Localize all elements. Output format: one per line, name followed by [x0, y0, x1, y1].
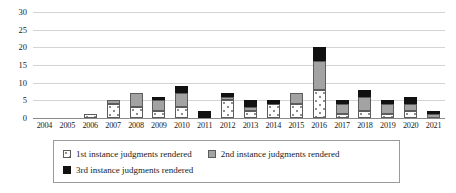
bar-segment-series2	[336, 104, 349, 115]
x-tick-label-2021: 2021	[422, 119, 445, 132]
y-tick-label: 0	[23, 114, 27, 123]
legend-swatch-2nd-instance-icon	[208, 150, 216, 158]
bar-segment-series2	[290, 93, 303, 104]
bar-stack	[381, 100, 394, 118]
y-tick-label: 25	[19, 25, 28, 34]
bar-stack	[221, 93, 234, 118]
y-tick-label: 10	[19, 78, 28, 87]
legend-swatch-3rd-instance-icon	[63, 166, 71, 174]
x-tick-label-2010: 2010	[170, 119, 193, 132]
x-tick-label-2005: 2005	[56, 119, 79, 132]
bar-column-2020[interactable]	[399, 12, 422, 118]
bar-stack	[313, 47, 326, 118]
bar-segment-series1	[221, 100, 234, 118]
x-tick-label-2016: 2016	[308, 119, 331, 132]
bar-stack	[152, 97, 165, 118]
legend-label-1st-instance: 1st instance judgments rendered	[76, 150, 192, 159]
bar-segment-series3	[358, 90, 371, 97]
x-tick-label-2011: 2011	[193, 119, 216, 132]
bar-segment-series3	[198, 111, 211, 118]
bar-segment-series2	[427, 114, 440, 118]
legend-item-3rd-instance[interactable]: 3rd instance judgments rendered	[63, 166, 193, 175]
bar-segment-series1	[267, 104, 280, 118]
bar-column-2007[interactable]	[102, 12, 125, 118]
x-axis: 2004200520062007200820092010201120122013…	[33, 119, 445, 132]
bar-column-2021[interactable]	[422, 12, 445, 118]
bar-segment-series2	[313, 61, 326, 89]
x-tick-label-2020: 2020	[399, 119, 422, 132]
bar-segment-series1	[244, 111, 257, 118]
bar-column-2017[interactable]	[331, 12, 354, 118]
plot-area	[33, 12, 445, 118]
x-tick-label-2014: 2014	[262, 119, 285, 132]
bar-segment-series3	[244, 100, 257, 107]
bar-column-2004[interactable]	[33, 12, 56, 118]
bar-column-2006[interactable]	[79, 12, 102, 118]
bar-segment-series1	[152, 111, 165, 118]
x-tick-label-2008: 2008	[125, 119, 148, 132]
stacked-bar-chart: 302520151050 200420052006200720082009201…	[0, 0, 456, 193]
bar-segment-series1	[358, 111, 371, 118]
bar-stack	[290, 93, 303, 118]
bar-segment-series3	[313, 47, 326, 61]
y-tick-label: 15	[19, 61, 28, 70]
x-tick-label-2019: 2019	[376, 119, 399, 132]
chart-legend: 1st instance judgments rendered 2nd inst…	[53, 140, 400, 183]
bar-segment-series2	[358, 97, 371, 111]
bar-stack	[244, 100, 257, 118]
legend-item-1st-instance[interactable]: 1st instance judgments rendered	[63, 150, 192, 159]
y-tick-label: 30	[19, 8, 28, 17]
bar-stack	[198, 111, 211, 118]
bar-column-2009[interactable]	[147, 12, 170, 118]
bar-segment-series1	[290, 104, 303, 118]
bar-column-2015[interactable]	[285, 12, 308, 118]
x-tick-label-2015: 2015	[285, 119, 308, 132]
bar-column-2018[interactable]	[353, 12, 376, 118]
x-tick-label-2013: 2013	[239, 119, 262, 132]
bar-segment-series1	[381, 114, 394, 118]
bar-segment-series1	[84, 114, 97, 118]
bar-column-2012[interactable]	[216, 12, 239, 118]
bar-column-2011[interactable]	[193, 12, 216, 118]
bar-column-2008[interactable]	[125, 12, 148, 118]
bar-stack	[404, 97, 417, 118]
bar-column-2005[interactable]	[56, 12, 79, 118]
bar-stack	[130, 93, 143, 118]
bar-column-2010[interactable]	[170, 12, 193, 118]
bar-segment-series1	[404, 111, 417, 118]
x-tick-label-2012: 2012	[216, 119, 239, 132]
y-axis: 302520151050	[0, 12, 30, 118]
y-tick-label: 5	[23, 96, 27, 105]
bar-column-2019[interactable]	[376, 12, 399, 118]
bar-segment-series1	[130, 107, 143, 118]
legend-row-1: 1st instance judgments rendered 2nd inst…	[63, 146, 399, 162]
bar-stack	[427, 111, 440, 118]
bar-stack	[84, 114, 97, 118]
bars-layer	[33, 12, 445, 118]
x-tick-label-2004: 2004	[33, 119, 56, 132]
legend-label-2nd-instance: 2nd instance judgments rendered	[221, 150, 340, 159]
bar-segment-series2	[381, 104, 394, 115]
x-tick-label-2007: 2007	[102, 119, 125, 132]
x-tick-label-2006: 2006	[79, 119, 102, 132]
bar-segment-series2	[130, 93, 143, 107]
bar-segment-series2	[175, 93, 188, 107]
bar-column-2016[interactable]	[308, 12, 331, 118]
bar-column-2014[interactable]	[262, 12, 285, 118]
bar-segment-series1	[313, 90, 326, 118]
bar-segment-series2	[152, 100, 165, 111]
legend-label-3rd-instance: 3rd instance judgments rendered	[76, 166, 193, 175]
x-tick-label-2017: 2017	[331, 119, 354, 132]
bar-segment-series1	[175, 107, 188, 118]
bar-column-2013[interactable]	[239, 12, 262, 118]
bar-stack	[107, 100, 120, 118]
bar-stack	[336, 100, 349, 118]
legend-item-2nd-instance[interactable]: 2nd instance judgments rendered	[208, 150, 340, 159]
bar-segment-series3	[404, 97, 417, 104]
bar-stack	[175, 86, 188, 118]
bar-stack	[358, 90, 371, 118]
x-tick-label-2018: 2018	[353, 119, 376, 132]
y-tick-label: 20	[19, 43, 28, 52]
bar-segment-series3	[175, 86, 188, 93]
bar-segment-series2	[404, 104, 417, 111]
